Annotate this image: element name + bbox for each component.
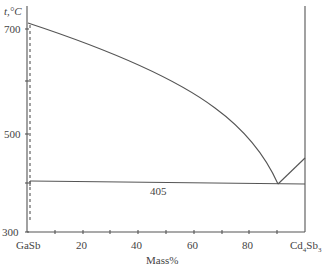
y-axis-title: t,°C bbox=[4, 5, 22, 17]
eutectic-line bbox=[30, 181, 305, 184]
phase-diagram: t,°C 700 500 300 GaSb 20 40 60 80 Cd4Sb3… bbox=[0, 0, 322, 268]
y-tick-300: 300 bbox=[2, 226, 19, 238]
x-axis-title: Mass% bbox=[146, 254, 178, 266]
x-tick-40: 40 bbox=[131, 239, 143, 251]
liquidus-curve-left bbox=[28, 23, 278, 184]
x-label-cd4sb3: Cd4Sb3 bbox=[290, 239, 322, 254]
x-tick-20: 20 bbox=[76, 239, 88, 251]
x-tick-80: 80 bbox=[242, 239, 254, 251]
x-label-gasb: GaSb bbox=[16, 239, 41, 251]
liquidus-curve-right bbox=[278, 158, 305, 184]
eutectic-temperature-label: 405 bbox=[150, 185, 167, 197]
x-tick-60: 60 bbox=[187, 239, 199, 251]
y-tick-700: 700 bbox=[4, 23, 21, 35]
y-tick-500: 500 bbox=[4, 128, 21, 140]
